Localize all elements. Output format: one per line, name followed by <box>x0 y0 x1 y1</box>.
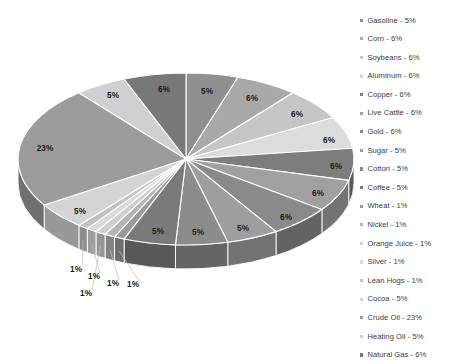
slice-percent-label: 6% <box>330 162 343 171</box>
legend-item[interactable]: Nickel - 1% <box>360 216 471 235</box>
legend-item-label: Corn - 6% <box>367 35 402 43</box>
legend-swatch-icon <box>360 93 363 96</box>
legend-item[interactable]: Lean Hogs - 1% <box>360 271 471 290</box>
legend-item[interactable]: Silver - 1% <box>360 253 471 272</box>
pie-chart-area: 5%6%6%6%6%6%6%5%5%5%1%1%1%1%1%5%23%5%6% <box>0 0 360 364</box>
legend-item[interactable]: Coffee - 5% <box>360 178 471 197</box>
legend-item[interactable]: Gasoline - 5% <box>360 11 471 30</box>
legend-item[interactable]: Gold - 6% <box>360 123 471 142</box>
slice-percent-label: 1% <box>127 280 140 289</box>
legend-swatch-icon <box>360 316 363 319</box>
legend-item[interactable]: Live Cattle - 6% <box>360 104 471 123</box>
slice-percent-label: 1% <box>70 265 83 274</box>
slice-percent-label: 1% <box>107 279 120 288</box>
pie-chart-svg: 5%6%6%6%6%6%6%5%5%5%1%1%1%1%1%5%23%5%6% <box>0 0 360 364</box>
legend-item-label: Lean Hogs - 1% <box>367 277 422 285</box>
legend-swatch-icon <box>360 167 363 170</box>
legend-item-label: Gasoline - 5% <box>367 17 415 25</box>
legend-item-label: Nickel - 1% <box>367 221 406 229</box>
legend-item-label: Coffee - 5% <box>367 184 408 192</box>
pie-slice-side <box>105 234 114 260</box>
legend-item[interactable]: Soybeans - 6% <box>360 48 471 67</box>
legend-swatch-icon <box>360 335 363 338</box>
legend-item-label: Orange Juice - 1% <box>367 240 431 248</box>
legend-item-label: Crude Oil - 23% <box>367 314 422 322</box>
legend-swatch-icon <box>360 223 363 226</box>
legend-swatch-icon <box>360 279 363 282</box>
legend-item-label: Aluminum - 6% <box>367 72 419 80</box>
slice-percent-label: 1% <box>80 289 93 298</box>
legend-swatch-icon <box>360 130 363 133</box>
legend-item-label: Silver - 1% <box>367 258 404 266</box>
legend-item[interactable]: Sugar - 5% <box>360 141 471 160</box>
legend-item[interactable]: Cocoa - 5% <box>360 290 471 309</box>
legend-item-label: Cotton - 5% <box>367 165 408 173</box>
legend-swatch-icon <box>360 19 363 22</box>
legend-item-label: Live Cattle - 6% <box>367 109 421 117</box>
legend-swatch-icon <box>360 74 363 77</box>
legend-swatch-icon <box>360 205 363 208</box>
legend-item[interactable]: Wheat - 1% <box>360 197 471 216</box>
legend-item-label: Heating Oil - 5% <box>367 333 423 341</box>
legend-item-label: Wheat - 1% <box>367 202 407 210</box>
legend-item-label: Gold - 6% <box>367 128 401 136</box>
legend-item[interactable]: Aluminum - 6% <box>360 67 471 86</box>
legend-item-label: Soybeans - 6% <box>367 54 419 62</box>
legend-swatch-icon <box>360 149 363 152</box>
legend-swatch-icon <box>360 186 363 189</box>
slice-percent-label: 6% <box>291 110 304 119</box>
slice-percent-label: 6% <box>312 189 325 198</box>
chart-legend: Gasoline - 5%Corn - 6%Soybeans - 6%Alumi… <box>360 0 471 364</box>
pie-top-faces <box>18 73 354 245</box>
legend-swatch-icon <box>360 37 363 40</box>
legend-item[interactable]: Corn - 6% <box>360 30 471 49</box>
pie-slice-side <box>175 242 227 269</box>
slice-percent-label: 6% <box>246 94 259 103</box>
legend-swatch-icon <box>360 56 363 59</box>
slice-percent-label: 5% <box>192 228 205 237</box>
slice-percent-label: 5% <box>237 224 250 233</box>
slice-percent-label: 5% <box>152 227 165 236</box>
slice-percent-label: 5% <box>74 207 87 216</box>
legend-item[interactable]: Heating Oil - 5% <box>360 327 471 346</box>
legend-swatch-icon <box>360 298 363 301</box>
legend-swatch-icon <box>360 112 363 115</box>
legend-item-label: Natural Gas - 6% <box>367 351 426 359</box>
slice-percent-label: 6% <box>158 85 171 94</box>
slice-percent-label: 5% <box>201 87 214 96</box>
legend-item-label: Sugar - 5% <box>367 147 406 155</box>
slice-percent-label: 6% <box>323 136 336 145</box>
pie-slice-side <box>96 232 105 259</box>
legend-swatch-icon <box>360 260 363 263</box>
slice-percent-label: 23% <box>37 144 54 153</box>
legend-swatch-icon <box>360 242 363 245</box>
slice-percent-label: 6% <box>280 213 293 222</box>
legend-item[interactable]: Crude Oil - 23% <box>360 309 471 328</box>
legend-item[interactable]: Orange Juice - 1% <box>360 234 471 253</box>
legend-item[interactable]: Natural Gas - 6% <box>360 346 471 364</box>
legend-item[interactable]: Copper - 6% <box>360 85 471 104</box>
pie-slice-side <box>87 229 96 256</box>
legend-swatch-icon <box>360 353 363 356</box>
legend-item-label: Cocoa - 5% <box>367 295 407 303</box>
pie-slice-side <box>114 237 124 263</box>
pie-slice-side <box>79 225 87 252</box>
slice-percent-label: 5% <box>107 91 120 100</box>
slice-percent-label: 1% <box>88 272 101 281</box>
legend-item-label: Copper - 6% <box>367 91 410 99</box>
legend-item[interactable]: Cotton - 5% <box>360 160 471 179</box>
